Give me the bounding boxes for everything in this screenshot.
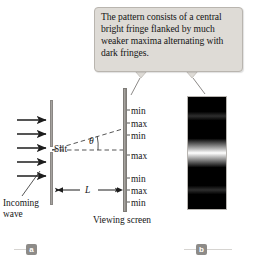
- viewing-screen-bar: [123, 88, 127, 212]
- incoming-wave-arrows: [17, 120, 46, 176]
- callout-pointer-right: [186, 71, 205, 94]
- incoming-wave-label-line1: Incoming: [3, 198, 39, 208]
- callout-pointer-left: [131, 71, 147, 95]
- viewing-screen-label: Viewing screen: [93, 215, 151, 225]
- distance-L-label: L: [85, 184, 90, 195]
- panel-tag-a: a: [26, 244, 37, 255]
- incoming-wave-leader: [22, 171, 40, 196]
- slit-label: Slit: [54, 144, 67, 154]
- fringe-tick-marks: [127, 110, 130, 202]
- incoming-wave-label-line2: wave: [3, 209, 23, 219]
- fringe-intensity-gradient: [188, 97, 226, 209]
- fringe-label-max-5: max: [131, 186, 147, 196]
- panel-tag-b: b: [196, 244, 207, 255]
- fringe-label-min-4: min: [131, 174, 146, 184]
- fringe-label-min-0: min: [131, 106, 146, 116]
- fringe-label-min-6: min: [131, 198, 146, 208]
- fringe-label-max-1: max: [131, 119, 147, 129]
- fringe-label-max-3: max: [131, 151, 147, 161]
- callout-text: The pattern consists of a central bright…: [101, 11, 238, 59]
- slit-barrier-upper: [50, 100, 53, 147]
- single-slit-diffraction-figure: The pattern consists of a central bright…: [0, 0, 260, 269]
- theta-angle-arc: [97, 136, 98, 150]
- slit-barrier-lower: [50, 152, 53, 205]
- fringe-label-min-2: min: [131, 131, 146, 141]
- diffraction-pattern-photo: [187, 96, 227, 210]
- theta-angle-label: θ: [89, 135, 94, 146]
